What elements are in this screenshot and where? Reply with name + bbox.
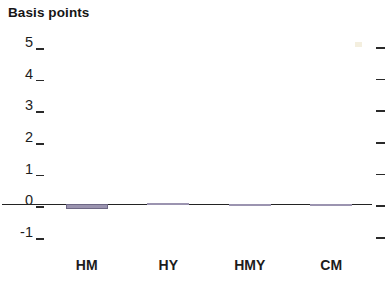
y-axis-tick-mark bbox=[36, 143, 44, 145]
y-axis-tick-label: 4 bbox=[25, 67, 33, 82]
x-axis-label-hmy: HMY bbox=[234, 258, 265, 272]
y-axis-tick-mark bbox=[36, 48, 44, 50]
bar-hm bbox=[66, 204, 108, 209]
y-axis-tick-label: 0 bbox=[25, 193, 33, 208]
y-axis-tick-mark-right bbox=[376, 237, 385, 239]
y-axis-tick-mark-right bbox=[376, 142, 385, 144]
y-axis-tick-mark bbox=[36, 175, 44, 177]
y-axis-tick-mark-right bbox=[376, 205, 385, 207]
bar-cm bbox=[310, 204, 352, 206]
bar-hy bbox=[147, 203, 189, 205]
bar-hmy bbox=[229, 204, 271, 206]
y-axis-tick-mark-right bbox=[376, 174, 385, 176]
y-axis-tick-mark-right bbox=[376, 79, 385, 81]
x-axis-label-hm: HM bbox=[76, 258, 98, 272]
plot-area: 543210-1 bbox=[46, 46, 372, 236]
y-axis-tick-mark bbox=[36, 80, 44, 82]
y-axis-tick-mark bbox=[36, 206, 44, 208]
y-axis-tick-label: -1 bbox=[20, 225, 33, 240]
y-axis-tick-label: 5 bbox=[25, 35, 33, 50]
y-axis-tick-mark-right bbox=[376, 47, 385, 49]
y-axis-tick-mark bbox=[36, 111, 44, 113]
y-axis-tick-label: 1 bbox=[25, 162, 33, 177]
y-axis-tick-label: 3 bbox=[25, 98, 33, 113]
x-axis-label-cm: CM bbox=[320, 258, 342, 272]
chart-title: Basis points bbox=[8, 5, 89, 20]
y-axis-tick-mark-right bbox=[376, 110, 385, 112]
x-axis-label-hy: HY bbox=[159, 258, 178, 272]
x-axis: HMHYHMYCM bbox=[46, 258, 372, 280]
y-axis-tick-mark bbox=[36, 238, 44, 240]
y-axis-tick-label: 2 bbox=[25, 130, 33, 145]
